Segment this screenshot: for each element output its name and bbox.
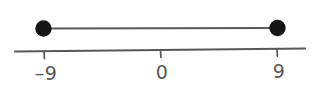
closed-endpoint-dot-right bbox=[269, 20, 285, 36]
number-line-plot: –9 0 9 bbox=[0, 0, 320, 89]
tick-label-center: 0 bbox=[156, 61, 169, 83]
number-line-figure: –9 0 9 bbox=[0, 0, 320, 89]
tick-label-right: 9 bbox=[273, 60, 286, 82]
tick-label-left: –9 bbox=[35, 62, 58, 84]
segment-line bbox=[44, 28, 277, 29]
closed-endpoint-dot-left bbox=[35, 20, 51, 36]
